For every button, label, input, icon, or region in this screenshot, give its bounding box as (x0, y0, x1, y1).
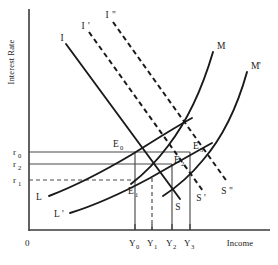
curve-I (66, 44, 180, 199)
svg-text:2: 2 (18, 164, 21, 171)
svg-text:r: r (13, 175, 16, 185)
x-axis-title: Income (227, 238, 253, 248)
curve-label-I-prime: I ' (81, 21, 90, 31)
svg-text:r: r (13, 147, 16, 157)
svg-text:I: I (105, 10, 108, 20)
ytick-label-r0: r 0 (13, 147, 22, 159)
svg-text:E: E (113, 139, 119, 149)
svg-text:E: E (174, 155, 180, 165)
svg-text:r: r (13, 159, 16, 169)
curve-label-M-prime: M ' (251, 61, 261, 71)
equilibrium-label-E2: E 2 (174, 155, 184, 167)
curve-label-S: S (175, 202, 180, 212)
curve-label-L: L (36, 192, 42, 202)
curve-label-I: I (60, 33, 63, 43)
svg-text:Y: Y (147, 238, 154, 248)
svg-text:': ' (259, 61, 261, 71)
equilibrium-label-E0: E 0 (113, 139, 124, 151)
curve-I-double-prime (113, 22, 228, 183)
ytick-label-r1: r 1 (13, 175, 21, 187)
svg-text:1: 1 (154, 243, 157, 250)
curve-label-I-double-prime: I " (105, 10, 116, 20)
xtick-label-Y1: Y 1 (147, 238, 157, 250)
curve-label-S-prime: S ' (196, 193, 206, 203)
svg-text:': ' (204, 193, 206, 203)
svg-text:I: I (81, 21, 84, 31)
equilibrium-label-E1: E 1 (128, 186, 138, 198)
svg-text:': ' (88, 21, 90, 31)
svg-text:0: 0 (136, 243, 140, 250)
svg-text:Y: Y (184, 238, 191, 248)
curve-label-M: M (217, 41, 226, 51)
svg-text:Y: Y (166, 238, 173, 248)
curve-I-prime (89, 32, 203, 191)
svg-text:1: 1 (135, 191, 138, 198)
svg-text:1: 1 (18, 180, 21, 187)
ytick-label-r2: r 2 (13, 159, 21, 171)
svg-text:3: 3 (191, 243, 195, 250)
svg-text:": " (112, 10, 116, 20)
svg-text:': ' (62, 209, 64, 219)
svg-text:2: 2 (173, 243, 176, 250)
xtick-label-Y3: Y 3 (184, 238, 195, 250)
y-axis-title: Interest Rate (6, 39, 16, 84)
svg-text:0: 0 (18, 152, 22, 159)
svg-text:E: E (193, 141, 199, 151)
xtick-label-Y2: Y 2 (166, 238, 176, 250)
svg-text:0: 0 (120, 144, 124, 151)
svg-text:2: 2 (181, 160, 184, 167)
svg-text:E: E (128, 186, 134, 196)
svg-text:S: S (196, 193, 201, 203)
svg-text:S: S (221, 186, 226, 196)
origin-label: 0 (25, 238, 30, 248)
xtick-label-Y0: Y 0 (129, 238, 140, 250)
chart-canvas: I I ' I " M M ' L L ' S S ' S " E 0 E 1 … (0, 0, 278, 265)
svg-text:": " (229, 186, 233, 196)
is-lm-diagram: I I ' I " M M ' L L ' S S ' S " E 0 E 1 … (0, 0, 278, 265)
svg-text:L: L (54, 209, 60, 219)
curve-label-S-double-prime: S " (221, 186, 233, 196)
curve-label-L-prime: L ' (54, 209, 64, 219)
curve-L (49, 118, 192, 196)
svg-text:Y: Y (129, 238, 136, 248)
